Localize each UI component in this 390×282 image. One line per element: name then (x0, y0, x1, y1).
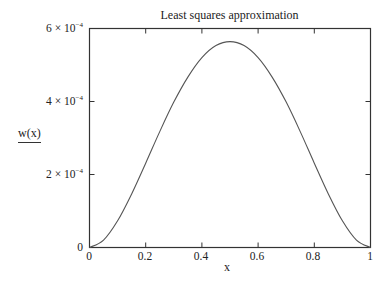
plot-frame (90, 29, 371, 248)
data-line-w (90, 42, 371, 248)
axis-ticks (90, 29, 371, 248)
chart-container: Least squares approximation w(x) x 0 2 ×… (0, 0, 390, 282)
plot-area (0, 0, 390, 282)
